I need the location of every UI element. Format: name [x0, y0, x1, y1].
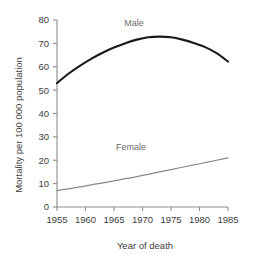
y-tick-label: 50	[38, 85, 49, 96]
series-group	[57, 37, 228, 191]
x-tick-label: 1980	[189, 214, 210, 225]
axis-lines	[57, 20, 228, 207]
x-axis-ticks	[57, 207, 228, 211]
series-line-female	[57, 158, 228, 191]
y-tick-label: 80	[38, 14, 49, 25]
x-tick-label: 1960	[75, 214, 96, 225]
series-label-male: Male	[124, 18, 144, 28]
series-line-male	[57, 37, 228, 84]
y-axis-tick-labels: 01020304050607080	[38, 14, 49, 212]
series-label-female: Female	[116, 142, 146, 152]
x-tick-label: 1975	[160, 214, 181, 225]
y-axis-ticks	[53, 20, 57, 207]
axes-group	[53, 20, 228, 211]
x-tick-label: 1985	[217, 214, 238, 225]
y-tick-label: 30	[38, 131, 49, 142]
x-axis-title: Year of death	[117, 240, 173, 251]
y-tick-label: 70	[38, 38, 49, 49]
y-axis-title: Mortality per 100 000 population	[13, 57, 24, 193]
y-tick-label: 20	[38, 155, 49, 166]
y-tick-label: 10	[38, 178, 49, 189]
x-tick-label: 1955	[46, 214, 67, 225]
x-tick-label: 1965	[103, 214, 124, 225]
chart-canvas: 01020304050607080 1955196019651970197519…	[0, 0, 254, 256]
y-tick-label: 40	[38, 108, 49, 119]
x-axis-tick-labels: 1955196019651970197519801985	[46, 214, 238, 225]
y-tick-label: 0	[44, 201, 49, 212]
mortality-line-chart: 01020304050607080 1955196019651970197519…	[0, 0, 254, 256]
x-tick-label: 1970	[132, 214, 153, 225]
y-tick-label: 60	[38, 61, 49, 72]
